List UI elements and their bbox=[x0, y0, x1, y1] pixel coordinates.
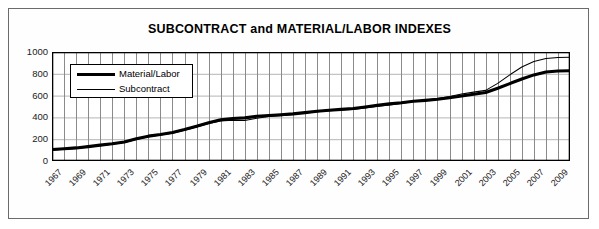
x-axis-tick-label: 2001 bbox=[452, 167, 473, 188]
x-axis-tick-label: 1989 bbox=[308, 167, 329, 188]
x-axis-tick-label: 1987 bbox=[284, 167, 305, 188]
x-axis-tick-label: 1991 bbox=[332, 167, 353, 188]
x-axis-tick-label: 1981 bbox=[211, 167, 232, 188]
x-axis-tick-label: 2007 bbox=[525, 167, 546, 188]
x-axis-tick-label: 1995 bbox=[380, 167, 401, 188]
y-axis-tick-label: 200 bbox=[4, 134, 48, 144]
x-axis-tick-label: 1975 bbox=[139, 167, 160, 188]
y-axis-tick-label: 1000 bbox=[4, 47, 48, 57]
y-axis-tick-label: 800 bbox=[4, 69, 48, 79]
x-axis-tick-label: 1983 bbox=[236, 167, 257, 188]
x-axis-tick-label: 2009 bbox=[549, 167, 570, 188]
chart-legend: Material/Labor Subcontract bbox=[70, 64, 193, 98]
y-axis-tick-label: 0 bbox=[4, 156, 48, 166]
x-axis-tick-label: 1979 bbox=[187, 167, 208, 188]
legend-label-material-labor: Material/Labor bbox=[119, 68, 180, 79]
y-axis-tick-labels: 02004006008001000 bbox=[0, 52, 48, 161]
x-axis-tick-label: 1997 bbox=[404, 167, 425, 188]
legend-item-subcontract: Subcontract bbox=[71, 81, 192, 98]
x-axis-tick-label: 1999 bbox=[428, 167, 449, 188]
thin-line-swatch bbox=[77, 89, 115, 90]
x-axis-tick-label: 1969 bbox=[67, 167, 88, 188]
x-axis-tick-label: 1973 bbox=[115, 167, 136, 188]
x-axis-tick-label: 1971 bbox=[91, 167, 112, 188]
x-axis-tick-label: 2005 bbox=[501, 167, 522, 188]
chart-title: SUBCONTRACT and MATERIAL/LABOR INDEXES bbox=[0, 22, 599, 36]
x-axis-tick-label: 1985 bbox=[260, 167, 281, 188]
chart-figure: SUBCONTRACT and MATERIAL/LABOR INDEXES 0… bbox=[0, 0, 599, 229]
x-axis-tick-label: 2003 bbox=[477, 167, 498, 188]
thick-line-swatch bbox=[77, 73, 115, 76]
legend-label-subcontract: Subcontract bbox=[119, 83, 170, 94]
y-axis-tick-label: 600 bbox=[4, 91, 48, 101]
x-axis-tick-label: 1993 bbox=[356, 167, 377, 188]
x-axis-tick-label: 1977 bbox=[163, 167, 184, 188]
y-axis-tick-label: 400 bbox=[4, 112, 48, 122]
x-axis-tick-labels: 1967196919711973197519771979198119831985… bbox=[52, 161, 570, 207]
